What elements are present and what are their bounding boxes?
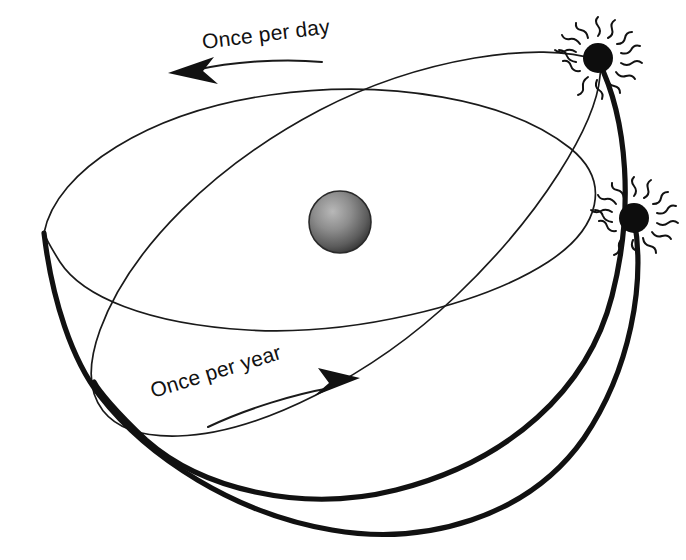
celestial-sphere-diagram: Once per day Once per year bbox=[0, 0, 686, 560]
earth-sphere bbox=[309, 191, 371, 253]
diagram-canvas: Once per day Once per year bbox=[0, 0, 686, 560]
once-per-year-label: Once per year bbox=[147, 340, 283, 402]
sun-path-upper-arc bbox=[94, 60, 625, 499]
once-per-day-label: Once per day bbox=[201, 14, 332, 53]
sun-icon-lower bbox=[591, 177, 678, 259]
once-per-day-arrow bbox=[168, 57, 322, 84]
